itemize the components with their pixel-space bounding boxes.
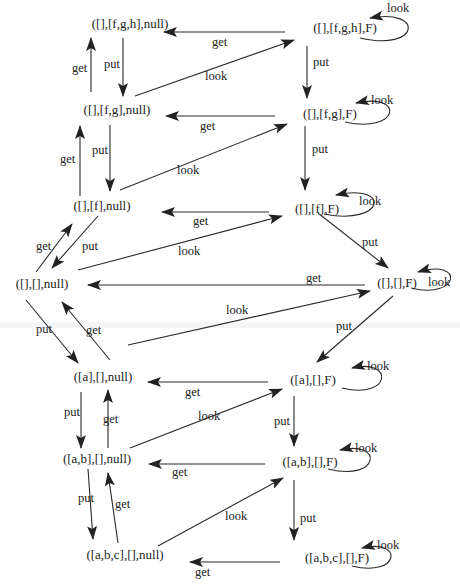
edge-label: put <box>274 414 291 428</box>
state-node-n-f-F: ([],[f],F) <box>295 201 339 216</box>
transition-arrow <box>120 124 287 190</box>
transition-arrow <box>317 296 393 362</box>
state-node-n-abc-null: ([a,b,c],[],null) <box>86 547 163 562</box>
edge-label: look <box>205 69 228 83</box>
edge-label: put <box>300 511 317 525</box>
state-node-n-a-null: ([a],[],null) <box>74 369 132 384</box>
edge-label: put <box>104 57 121 71</box>
edge-put-n_a_F-to-n_ab_F: put <box>274 396 294 446</box>
edge-label: get <box>60 152 76 166</box>
state-node-n-fgh-F: ([],[f,g,h],F) <box>313 20 377 35</box>
edge-put-n_fgh_null-to-n_fg_null: put <box>104 38 123 96</box>
edge-put-n_f_F-to-n_e_F: put <box>318 213 388 268</box>
edge-get-n_abc_null-to-n_ab_null: get <box>108 473 131 543</box>
state-node-n-ab-F: ([a,b],[],F) <box>282 454 337 469</box>
edge-get-n_f_F-to-n_f_null: get <box>162 212 269 228</box>
edge-look-n_a_F-to-n_a_F: look <box>342 359 390 390</box>
edge-label: get <box>193 214 209 228</box>
state-node-n-fgh-null: ([],[f,g,h],null) <box>92 16 169 31</box>
state-node-n-a-F: ([a],[],F) <box>290 372 335 387</box>
edge-label: get <box>212 35 228 49</box>
edge-label: get <box>36 239 52 253</box>
edge-label: put <box>312 142 329 156</box>
edge-label: put <box>362 235 379 249</box>
edge-label: get <box>200 119 216 133</box>
edge-get-n_a_null-to-n_e_null: get <box>62 302 110 360</box>
state-diagram: getlookgetputlookputgetlooklookgetputput… <box>0 0 460 586</box>
edge-label: look <box>367 359 390 373</box>
edge-label: look <box>377 538 400 552</box>
edge-label: look <box>371 93 394 107</box>
edge-get-n_abc_F-to-n_abc_null: get <box>190 562 280 579</box>
edge-put-n_ab_null-to-n_abc_null: put <box>78 469 95 539</box>
edge-label: put <box>82 239 99 253</box>
state-node-n-abc-F: ([a,b,c],[],F) <box>305 550 369 565</box>
edge-get-n_fg_null-to-n_fgh_null: get <box>72 38 91 92</box>
edge-get-n_ab_F-to-n_ab_null: get <box>149 464 265 479</box>
edge-look-n_f_null-to-n_fg_F: look <box>120 124 287 190</box>
edge-put-n_e_null-to-n_a_null: put <box>26 300 78 363</box>
edge-put-n_fgh_F-to-n_fg_F: put <box>307 46 330 98</box>
edge-label: get <box>115 497 131 511</box>
edge-label: get <box>86 323 102 337</box>
edge-label: put <box>64 405 81 419</box>
transition-arrow <box>78 216 282 270</box>
scan-artifact-band <box>0 322 460 328</box>
state-node-n-e-F: ([],[],F) <box>377 275 417 290</box>
edge-label: get <box>172 465 188 479</box>
nodes-layer: ([],[f,g,h],null)([],[f,g,h],F)([],[f,g]… <box>16 16 417 565</box>
edge-look-n_e_null-to-n_f_F: look <box>78 216 282 270</box>
edge-look-n_e_F-to-n_e_F: look <box>411 269 451 290</box>
edge-get-n_e_F-to-n_e_null: get <box>88 271 365 285</box>
edge-label: put <box>92 143 109 157</box>
state-node-n-fg-null: ([],[f,g],null) <box>84 102 151 117</box>
edge-get-n_f_null-to-n_fg_null: get <box>60 126 80 196</box>
edge-put-n_ab_F-to-n_abc_F: put <box>294 480 317 540</box>
edge-label: get <box>185 385 201 399</box>
edge-label: look <box>428 275 451 289</box>
edges-layer: getlookgetputlookputgetlooklookgetputput… <box>26 1 451 579</box>
state-node-n-fg-F: ([],[f,g],F) <box>303 106 357 121</box>
edge-label: look <box>355 441 378 455</box>
state-node-n-ab-null: ([a,b],[],null) <box>63 451 131 466</box>
edge-label: get <box>103 412 119 426</box>
edge-get-n_fg_F-to-n_fg_null: get <box>166 116 275 133</box>
edge-label: look <box>225 509 248 523</box>
edge-label: look <box>387 1 410 15</box>
edge-get-n_fgh_F-to-n_fgh_null: get <box>164 32 285 49</box>
edge-get-n_e_null-to-n_f_null: get <box>36 224 72 272</box>
state-node-n-f-null: ([],[f],null) <box>73 198 130 213</box>
edge-label: look <box>198 409 221 423</box>
edge-look-n_ab_null-to-n_a_F: look <box>130 389 282 448</box>
edge-get-n_a_F-to-n_a_null: get <box>148 382 268 399</box>
edge-look-n_a_null-to-n_e_F: look <box>128 291 370 345</box>
edge-label: look <box>177 163 200 177</box>
edge-put-n_e_F-to-n_a_F: put <box>317 296 393 362</box>
edge-put-n_a_null-to-n_ab_null: put <box>64 392 81 448</box>
edge-label: get <box>72 61 88 75</box>
edge-label: get <box>195 565 211 579</box>
edge-label: look <box>226 303 249 317</box>
transition-arrow <box>26 300 78 363</box>
transition-arrow <box>158 478 283 546</box>
edge-label: look <box>359 194 382 208</box>
state-node-n-e-null: ([],[],null) <box>16 276 69 291</box>
edge-look-n_abc_null-to-n_ab_F: look <box>158 478 283 546</box>
edge-label: look <box>178 244 201 258</box>
edge-label: get <box>306 271 322 285</box>
edge-put-n_fg_null-to-n_f_null: put <box>92 125 110 191</box>
edge-label: put <box>36 322 53 336</box>
edge-label: put <box>313 55 330 69</box>
transition-arrow <box>128 291 370 345</box>
edge-get-n_ab_null-to-n_a_null: get <box>103 390 119 448</box>
edge-label: put <box>336 319 353 333</box>
edge-label: put <box>78 491 95 505</box>
edge-put-n_fg_F-to-n_f_F: put <box>305 126 329 190</box>
